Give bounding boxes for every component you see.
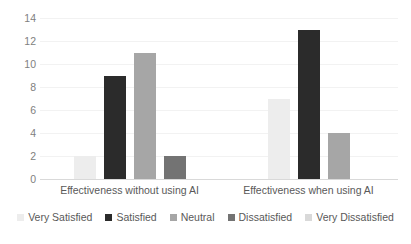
legend-swatch-icon xyxy=(170,214,177,221)
bar xyxy=(74,156,96,179)
bar xyxy=(134,53,156,180)
bar xyxy=(298,30,320,180)
legend-swatch-icon xyxy=(228,214,235,221)
x-axis: Effectiveness without using AIEffectiven… xyxy=(40,184,398,202)
legend-label: Dissatisfied xyxy=(239,211,293,223)
chart-legend: Very SatisfiedSatisfiedNeutralDissatisfi… xyxy=(0,211,411,223)
bar-group xyxy=(268,18,350,179)
y-axis-tick-label: 0 xyxy=(4,174,36,184)
y-axis-tick-label: 12 xyxy=(4,36,36,46)
y-axis-tick-label: 10 xyxy=(4,59,36,69)
legend-label: Satisfied xyxy=(116,211,156,223)
y-axis-tick-label: 2 xyxy=(4,151,36,161)
legend-swatch-icon xyxy=(17,214,24,221)
legend-item[interactable]: Very Dissatisfied xyxy=(305,211,394,223)
bar xyxy=(104,76,126,180)
legend-item[interactable]: Very Satisfied xyxy=(17,211,92,223)
bar-chart: 02468101214 Effectiveness without using … xyxy=(0,0,411,244)
legend-item[interactable]: Dissatisfied xyxy=(228,211,293,223)
legend-item[interactable]: Satisfied xyxy=(105,211,156,223)
y-axis-tick-label: 14 xyxy=(4,13,36,23)
plot-area xyxy=(40,18,398,179)
bar xyxy=(268,99,290,180)
x-axis-category-label: Effectiveness when using AI xyxy=(219,184,398,196)
x-axis-category-label: Effectiveness without using AI xyxy=(40,184,219,196)
bar xyxy=(164,156,186,179)
legend-label: Very Satisfied xyxy=(28,211,92,223)
legend-label: Neutral xyxy=(181,211,215,223)
y-axis-tick-label: 4 xyxy=(4,128,36,138)
legend-swatch-icon xyxy=(305,214,312,221)
bar xyxy=(328,133,350,179)
y-axis-tick-label: 8 xyxy=(4,82,36,92)
legend-swatch-icon xyxy=(105,214,112,221)
legend-label: Very Dissatisfied xyxy=(316,211,394,223)
axis-baseline xyxy=(40,179,398,180)
legend-item[interactable]: Neutral xyxy=(170,211,215,223)
y-axis-tick-label: 6 xyxy=(4,105,36,115)
y-axis: 02468101214 xyxy=(0,18,36,179)
bar-group xyxy=(74,18,186,179)
